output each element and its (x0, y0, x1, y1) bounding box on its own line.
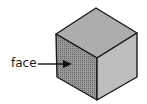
face-label: face (11, 56, 37, 70)
cube-diagram (0, 0, 147, 104)
